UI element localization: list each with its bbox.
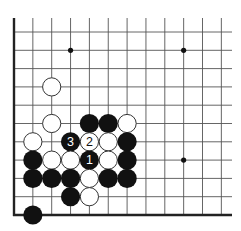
white-stone [43, 114, 61, 132]
black-stone-move-1: 1 [80, 151, 99, 170]
black-stone [118, 132, 137, 151]
white-stone [80, 169, 98, 187]
black-stone-icon [118, 169, 137, 188]
black-stone-icon [23, 205, 42, 224]
star-point-icon [181, 48, 186, 53]
black-stone-icon [42, 169, 61, 188]
white-stone [99, 133, 117, 151]
white-stone [24, 133, 42, 151]
black-stone [42, 169, 61, 188]
white-stone-icon [99, 133, 117, 151]
move-number-label: 2 [86, 135, 93, 149]
black-stone [99, 169, 118, 188]
black-stone [23, 205, 42, 224]
white-stone-icon [43, 114, 61, 132]
white-stone [43, 151, 61, 169]
black-stone [23, 169, 42, 188]
white-stone [80, 188, 98, 206]
black-stone-icon [23, 151, 42, 170]
white-stone [43, 78, 61, 96]
black-stone [61, 169, 80, 188]
star-point-icon [181, 158, 186, 163]
black-stone [118, 169, 137, 188]
white-stone-move-2: 2 [80, 133, 98, 151]
move-number-label: 1 [86, 153, 93, 167]
black-stone-icon [61, 169, 80, 188]
black-stone [118, 151, 137, 170]
white-stone-icon [80, 169, 98, 187]
white-stone-icon [43, 151, 61, 169]
black-stone [61, 187, 80, 206]
go-board-diagram: 321 [0, 0, 241, 231]
black-stone-move-3: 3 [61, 132, 80, 151]
black-stone-icon [118, 132, 137, 151]
move-number-label: 3 [67, 135, 74, 149]
black-stone-icon [118, 151, 137, 170]
black-stone-icon [80, 114, 99, 133]
white-stone-icon [118, 114, 136, 132]
white-stone [61, 151, 79, 169]
black-stone [80, 114, 99, 133]
white-stone-icon [99, 151, 117, 169]
black-stone-icon [23, 169, 42, 188]
black-stone [99, 114, 118, 133]
black-stone-icon [61, 187, 80, 206]
black-stone-icon [99, 169, 118, 188]
white-stone [118, 114, 136, 132]
white-stone-icon [80, 188, 98, 206]
white-stone-icon [61, 151, 79, 169]
white-stone-icon [24, 133, 42, 151]
star-point-icon [68, 48, 73, 53]
black-stone [23, 151, 42, 170]
black-stone-icon [99, 114, 118, 133]
white-stone-icon [43, 78, 61, 96]
white-stone [99, 151, 117, 169]
stones-layer: 321 [23, 78, 136, 225]
